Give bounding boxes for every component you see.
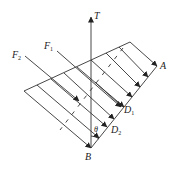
ray-F1-double bbox=[95, 82, 119, 104]
label-F2: F2 bbox=[11, 49, 21, 61]
ray bbox=[119, 47, 148, 77]
label-B: B bbox=[85, 151, 91, 162]
upper-edge bbox=[24, 42, 130, 91]
label-theta: θ bbox=[94, 125, 98, 134]
label-A: A bbox=[159, 60, 167, 71]
ray-edge-left bbox=[24, 91, 91, 148]
label-F1: F1 bbox=[43, 40, 53, 52]
parallel-rays-diagram: T A B F1 F2 D1 D2 θ bbox=[0, 0, 176, 169]
ray bbox=[37, 85, 99, 138]
label-D1: D1 bbox=[123, 104, 134, 116]
ray bbox=[106, 53, 140, 87]
label-T: T bbox=[94, 10, 101, 21]
label-D2: D2 bbox=[110, 124, 121, 136]
ray bbox=[91, 60, 132, 97]
